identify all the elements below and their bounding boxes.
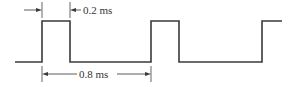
pulse-width-label: 0.2 ms [83,4,112,16]
pulse-waveform-diagram: 0.2 ms 0.8 ms [0,0,296,87]
right-arrowhead-icon [145,72,151,76]
pulse-width-dimension: 0.2 ms [24,2,112,18]
square-wave-trace [15,21,282,62]
period-dimension: 0.8 ms [42,66,151,82]
left-arrowhead-icon [42,72,48,76]
right-arrowhead-icon [36,8,42,12]
left-arrowhead-icon [70,8,76,12]
period-label: 0.8 ms [79,68,108,80]
